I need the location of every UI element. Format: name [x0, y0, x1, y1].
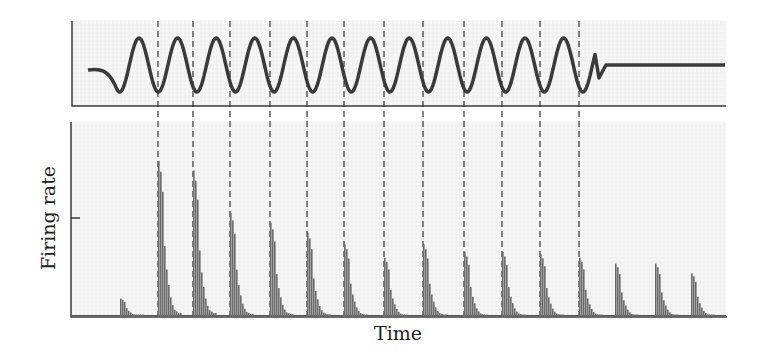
firing-bar	[486, 315, 488, 317]
firing-bar	[230, 213, 232, 316]
y-axis-label: Firing rate	[37, 166, 59, 270]
firing-bar	[282, 305, 284, 316]
firing-bar	[325, 313, 327, 316]
firing-bar	[560, 315, 562, 317]
firing-bar	[384, 258, 386, 316]
firing-bar	[633, 314, 635, 316]
firing-bar	[548, 297, 550, 316]
firing-bar	[274, 242, 276, 316]
firing-bar	[711, 315, 713, 317]
firing-bar	[540, 254, 542, 316]
firing-bar	[313, 278, 315, 316]
firing-bar	[394, 304, 396, 316]
firing-bar	[542, 258, 544, 316]
firing-bar	[201, 272, 203, 316]
firing-bar	[195, 181, 197, 316]
firing-bar	[398, 312, 400, 316]
firing-bar	[480, 313, 482, 316]
firing-bar	[597, 314, 599, 316]
firing-bar	[552, 309, 554, 316]
firing-bar	[431, 294, 433, 316]
firing-bar	[433, 302, 435, 316]
firing-bar	[348, 259, 350, 316]
firing-bar	[697, 297, 699, 316]
figure	[0, 0, 758, 361]
firing-bar	[707, 314, 709, 316]
firing-bar	[484, 315, 486, 317]
firing-bar	[138, 315, 140, 317]
firing-bar	[390, 290, 392, 316]
firing-bar	[160, 172, 162, 316]
firing-bar	[250, 314, 252, 316]
firing-bar	[579, 258, 581, 316]
firing-bar	[482, 314, 484, 316]
firing-bar	[246, 312, 248, 316]
firing-bar	[556, 314, 558, 316]
firing-bar	[583, 269, 585, 316]
firing-bar	[713, 315, 715, 317]
firing-bar	[344, 244, 346, 316]
firing-bar	[270, 223, 272, 316]
firing-bar	[362, 314, 364, 316]
firing-bar	[158, 161, 160, 316]
firing-bar	[522, 315, 524, 317]
firing-bar	[142, 315, 144, 317]
firing-bar	[445, 315, 447, 317]
firing-bar	[699, 303, 701, 316]
firing-bar	[317, 299, 319, 316]
firing-bar	[402, 314, 404, 316]
firing-bar	[327, 314, 329, 316]
firing-bar	[585, 290, 587, 316]
firing-bar	[286, 312, 288, 316]
firing-bar	[703, 311, 705, 316]
firing-bar	[581, 262, 583, 316]
firing-bar	[546, 288, 548, 316]
firing-bar	[170, 297, 172, 316]
firing-bar	[520, 314, 522, 316]
firing-bar	[661, 292, 663, 316]
firing-bar	[518, 313, 520, 316]
firing-bar	[423, 244, 425, 316]
firing-bar	[429, 284, 431, 316]
firing-bar	[386, 262, 388, 316]
firing-bar	[466, 256, 468, 316]
firing-bar	[627, 310, 629, 316]
firing-bar	[174, 310, 176, 316]
firing-bar	[659, 274, 661, 316]
firing-bar	[234, 234, 236, 316]
firing-bar	[120, 299, 122, 316]
firing-bar	[396, 309, 398, 316]
firing-bar	[134, 315, 136, 317]
firing-bar	[132, 314, 134, 316]
firing-bar	[655, 264, 657, 316]
firing-bar	[315, 291, 317, 316]
firing-bar	[673, 314, 675, 316]
firing-bar	[178, 313, 180, 316]
firing-bar	[209, 310, 211, 316]
firing-bar	[671, 314, 673, 316]
firing-bar	[665, 306, 667, 316]
firing-bar	[124, 302, 126, 316]
firing-bar	[392, 299, 394, 316]
firing-bar	[140, 315, 142, 317]
firing-bar	[470, 287, 472, 316]
firing-bar	[240, 295, 242, 316]
firing-bar	[705, 313, 707, 316]
firing-bar	[346, 249, 348, 316]
firing-bar	[502, 252, 504, 316]
firing-bar	[625, 306, 627, 316]
firing-bar	[591, 309, 593, 316]
firing-bar	[329, 314, 331, 316]
firing-bar	[290, 314, 292, 316]
firing-bar	[354, 302, 356, 316]
firing-bar	[472, 297, 474, 316]
firing-bar	[512, 303, 514, 316]
firing-bar	[441, 314, 443, 316]
firing-bar	[278, 288, 280, 316]
firing-bar	[663, 300, 665, 316]
firing-bar	[425, 249, 427, 316]
firing-bar	[193, 171, 195, 317]
firing-bar	[629, 312, 631, 316]
firing-bar	[205, 299, 207, 316]
firing-bar	[589, 304, 591, 316]
